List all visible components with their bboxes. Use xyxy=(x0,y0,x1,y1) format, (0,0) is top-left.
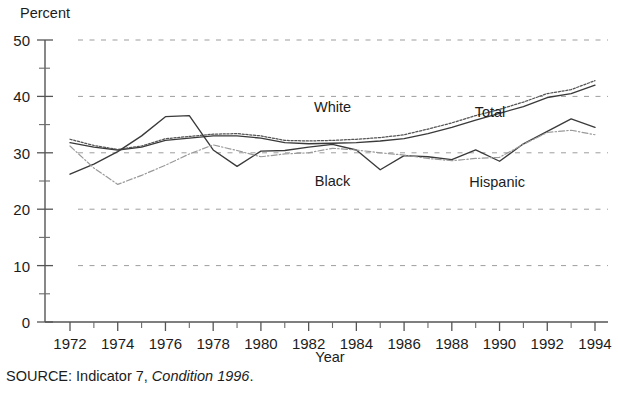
y-tick-label-50: 50 xyxy=(13,32,30,49)
y-axis-title: Percent xyxy=(20,5,70,21)
y-tick-label-0: 0 xyxy=(22,314,30,331)
y-tick-label-30: 30 xyxy=(13,145,30,162)
series-label-hispanic: Hispanic xyxy=(469,174,525,190)
y-axis-tick-labels: 01020304050 xyxy=(13,32,30,331)
gridlines xyxy=(78,40,608,266)
x-tick-label-1988: 1988 xyxy=(435,335,468,352)
source-note-suffix: . xyxy=(249,368,253,384)
series-inline-labels: TotalWhiteBlackHispanic xyxy=(314,99,525,189)
source-note-publication: Condition 1996 xyxy=(152,368,250,384)
y-tick-label-20: 20 xyxy=(13,201,30,218)
series-label-black: Black xyxy=(315,173,351,189)
x-tick-label-1978: 1978 xyxy=(196,335,229,352)
x-axis-title: Year xyxy=(315,349,344,365)
x-tick-label-1986: 1986 xyxy=(387,335,420,352)
y-tick-label-40: 40 xyxy=(13,88,30,105)
series-label-white: White xyxy=(314,99,351,115)
x-tick-label-1976: 1976 xyxy=(149,335,182,352)
x-tick-label-1992: 1992 xyxy=(531,335,564,352)
x-tick-label-1990: 1990 xyxy=(483,335,516,352)
source-note: SOURCE: Indicator 7, Condition 1996. xyxy=(6,368,253,384)
source-note-prefix: SOURCE: Indicator 7, xyxy=(6,368,152,384)
x-tick-label-1980: 1980 xyxy=(244,335,277,352)
x-tick-label-1994: 1994 xyxy=(578,335,611,352)
chart-figure: 01020304050 1972197419761978198019821984… xyxy=(0,0,618,397)
y-tick-label-10: 10 xyxy=(13,258,30,275)
series-label-total: Total xyxy=(475,104,506,120)
x-tick-label-1984: 1984 xyxy=(340,335,373,352)
x-tick-label-1974: 1974 xyxy=(101,335,134,352)
x-tick-label-1972: 1972 xyxy=(53,335,86,352)
